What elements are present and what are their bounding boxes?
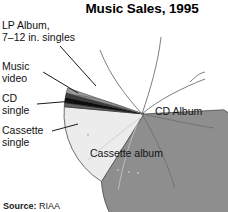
callout-music-video-line2: video — [2, 73, 29, 85]
callout-cd-single: CD single — [2, 93, 29, 116]
pie-chart-figure: Music Sales, 1995 — [0, 0, 228, 212]
callout-cassette-single-line1: Cassette — [2, 125, 43, 137]
source-note: Source: RIAA — [3, 201, 60, 211]
source-label: Source: — [3, 201, 37, 211]
slice-label-cassette-album: Cassette album — [90, 148, 163, 159]
callout-music-video-line1: Music — [2, 61, 29, 73]
callout-music-video: Music video — [2, 61, 29, 84]
callout-cassette-single: Cassette single — [2, 125, 43, 148]
slice-label-cd-album: CD Album — [155, 106, 202, 117]
callout-lp-album: LP Album, 7–12 in. singles — [2, 20, 75, 43]
source-value: RIAA — [39, 201, 60, 211]
callout-lp-album-line2: 7–12 in. singles — [2, 32, 75, 44]
callout-lp-album-line1: LP Album, — [2, 20, 75, 32]
callout-cassette-single-line2: single — [2, 137, 43, 149]
callout-cd-single-line1: CD — [2, 93, 29, 105]
callout-cd-single-line2: single — [2, 105, 29, 117]
